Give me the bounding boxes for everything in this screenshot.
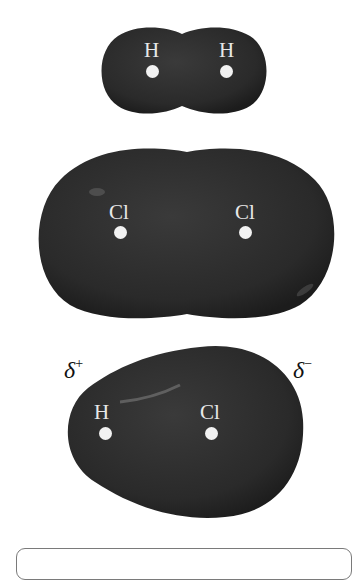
nucleus-dot: [205, 427, 218, 440]
atom-label-h: H: [144, 40, 159, 61]
nucleus-dot: [99, 427, 112, 440]
nucleus-dot: [146, 65, 159, 78]
atom-label-cl: Cl: [235, 202, 255, 223]
atom-label-cl: Cl: [109, 202, 129, 223]
nucleus-dot: [220, 65, 233, 78]
cl2-surface: [39, 149, 335, 319]
partial-negative-charge: δ−: [293, 357, 312, 382]
atom-label-cl: Cl: [200, 402, 220, 423]
nucleus-dot: [239, 226, 252, 239]
partial-positive-charge: δ+: [64, 357, 83, 382]
h2-surface: [102, 28, 267, 114]
atom-label-h: H: [94, 402, 109, 423]
nucleus-dot: [114, 226, 127, 239]
atom-label-h: H: [219, 40, 234, 61]
caption-box: [16, 548, 352, 580]
